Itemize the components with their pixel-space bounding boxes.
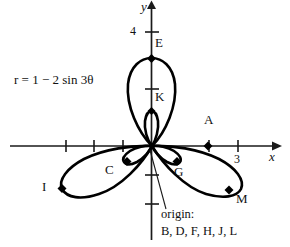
point-label-E: E bbox=[155, 36, 163, 49]
point-marker-A bbox=[204, 142, 213, 151]
y-axis-arrow-icon bbox=[147, 1, 156, 10]
origin-note-line1: origin: bbox=[161, 207, 194, 222]
polar-curve-svg bbox=[0, 0, 290, 247]
point-label-G: G bbox=[174, 165, 183, 178]
point-label-K: K bbox=[155, 90, 164, 103]
x-tick-label-3: 3 bbox=[234, 153, 240, 165]
y-axis-label: y bbox=[141, 0, 147, 13]
polar-plot-figure: r = 1 − 2 sin 3θ x y 4 3 A E K C G I M o… bbox=[0, 0, 290, 247]
point-label-M: M bbox=[236, 192, 248, 205]
equation-annotation: r = 1 − 2 sin 3θ bbox=[14, 73, 93, 86]
x-axis-label: x bbox=[269, 150, 275, 163]
point-label-C: C bbox=[105, 163, 114, 176]
y-tick-label-4: 4 bbox=[130, 25, 136, 37]
point-marker-E bbox=[147, 54, 156, 63]
origin-note-line2: B, D, F, H, J, L bbox=[161, 224, 237, 239]
point-label-I: I bbox=[42, 180, 46, 193]
point-label-A: A bbox=[204, 113, 213, 126]
point-marker-M bbox=[225, 186, 234, 195]
